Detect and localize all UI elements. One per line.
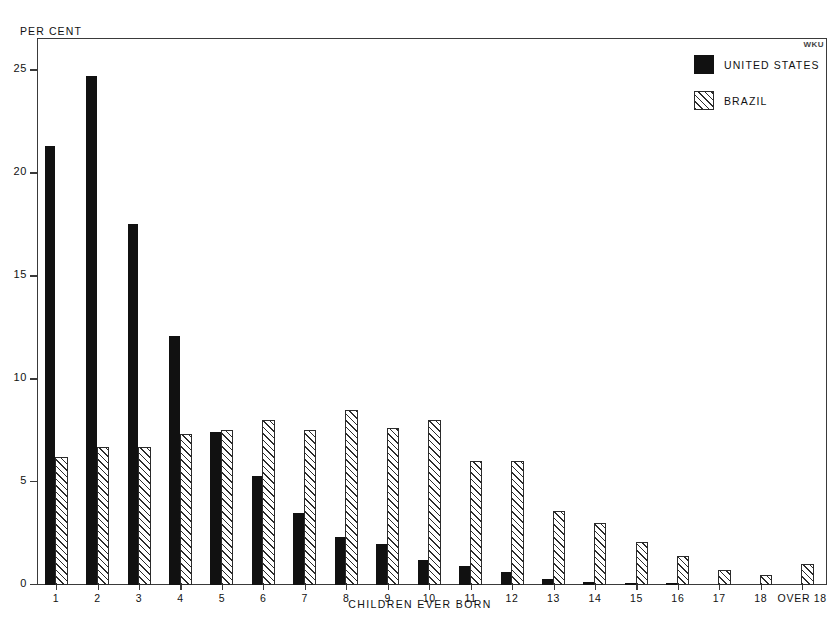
bar-group — [128, 39, 151, 585]
bar-brazil — [636, 542, 648, 585]
x-axis-tick-mark — [139, 585, 140, 590]
bar-brazil — [180, 434, 192, 584]
y-axis-tick-mark — [30, 378, 37, 379]
bar-brazil — [428, 420, 440, 585]
legend-entry: BRAZIL — [694, 91, 820, 110]
x-axis-caption: CHILDREN EVER BORN — [0, 598, 840, 610]
bar-united-states — [335, 537, 346, 584]
bar-group — [252, 39, 275, 585]
bar-group — [542, 39, 565, 585]
bar-united-states — [45, 146, 56, 585]
x-axis-tick-mark — [761, 585, 762, 590]
bar-group — [86, 39, 109, 585]
bar-group — [666, 39, 689, 585]
bar-brazil — [553, 511, 565, 585]
bar-brazil — [55, 457, 67, 585]
bar-group — [583, 39, 606, 585]
y-axis-tick-label: 15 — [14, 268, 27, 280]
x-axis-tick-mark — [636, 585, 637, 590]
x-axis-tick-mark — [388, 585, 389, 590]
bar-group — [335, 39, 358, 585]
y-axis-tick-mark — [30, 584, 37, 585]
x-axis-tick-mark — [346, 585, 347, 590]
x-axis-tick-mark — [56, 585, 57, 590]
x-axis-tick-mark — [719, 585, 720, 590]
bar-brazil — [470, 461, 482, 585]
y-axis-tick-mark — [30, 275, 37, 276]
legend: UNITED STATESBRAZIL — [694, 55, 820, 127]
bar-brazil — [511, 461, 523, 585]
bar-united-states — [459, 566, 470, 585]
chart-figure: PER CENT 0510152025 12345678910111213141… — [0, 0, 840, 626]
bar-brazil — [801, 564, 813, 585]
legend-swatch-brazil — [694, 91, 714, 110]
bar-group — [293, 39, 316, 585]
x-axis-tick-mark — [222, 585, 223, 590]
y-axis-tick-label: 25 — [14, 62, 27, 74]
x-axis-tick-mark — [802, 585, 803, 590]
y-axis-tick-label: 5 — [20, 474, 27, 486]
bar-united-states — [210, 432, 221, 584]
bar-brazil — [138, 447, 150, 585]
x-axis-tick-mark — [678, 585, 679, 590]
y-axis-tick-mark — [30, 481, 37, 482]
bar-group — [45, 39, 68, 585]
x-axis-tick-mark — [554, 585, 555, 590]
bar-group — [418, 39, 441, 585]
bar-brazil — [345, 410, 357, 585]
x-axis-tick-mark — [429, 585, 430, 590]
y-axis-tick-mark — [30, 172, 37, 173]
bar-group — [210, 39, 233, 585]
bar-brazil — [387, 428, 399, 584]
bar-group — [501, 39, 524, 585]
bar-united-states — [128, 224, 139, 584]
bar-brazil — [262, 420, 274, 585]
x-axis-tick-mark — [263, 585, 264, 590]
y-axis-tick-label: 20 — [14, 165, 27, 177]
legend-label: BRAZIL — [724, 95, 767, 107]
y-axis-tick-label: 10 — [14, 371, 27, 383]
legend-entry: UNITED STATES — [694, 55, 820, 74]
x-axis-tick-mark — [471, 585, 472, 590]
x-axis-tick-mark — [98, 585, 99, 590]
bar-brazil — [718, 570, 730, 584]
bar-united-states — [542, 579, 553, 585]
bar-brazil — [221, 430, 233, 584]
x-axis-tick-mark — [595, 585, 596, 590]
bar-brazil — [760, 575, 772, 585]
bar-united-states — [418, 560, 429, 585]
watermark: WKU — [803, 40, 824, 49]
y-axis-tick-mark — [30, 69, 37, 70]
bar-united-states — [376, 544, 387, 585]
x-axis-tick-mark — [512, 585, 513, 590]
bar-united-states — [86, 76, 97, 585]
bar-united-states — [252, 476, 263, 585]
legend-swatch-united-states — [694, 55, 714, 74]
x-axis-tick-mark — [305, 585, 306, 590]
bar-brazil — [594, 523, 606, 585]
bar-brazil — [304, 430, 316, 584]
x-axis-tick-mark — [180, 585, 181, 590]
bar-united-states — [501, 572, 512, 584]
bar-group — [625, 39, 648, 585]
legend-label: UNITED STATES — [724, 59, 820, 71]
bar-united-states — [293, 513, 304, 585]
bar-group — [169, 39, 192, 585]
bar-brazil — [677, 556, 689, 585]
bar-group — [459, 39, 482, 585]
bar-united-states — [169, 336, 180, 585]
y-axis-tick-label: 0 — [20, 577, 27, 589]
y-axis: 0510152025 — [0, 0, 37, 626]
bar-brazil — [97, 447, 109, 585]
bar-group — [376, 39, 399, 585]
